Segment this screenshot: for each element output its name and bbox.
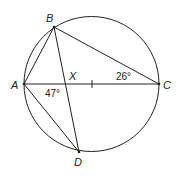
label-point-A: A bbox=[10, 79, 18, 91]
point-A-dot bbox=[23, 83, 26, 86]
segment-AB bbox=[24, 27, 54, 84]
geometry-diagram: B A C D X 47° 26° bbox=[0, 0, 178, 183]
angle-label-47: 47° bbox=[45, 88, 60, 99]
point-D-dot bbox=[78, 151, 81, 154]
label-point-X: X bbox=[68, 70, 77, 82]
label-point-C: C bbox=[163, 79, 171, 91]
point-B-dot bbox=[53, 26, 56, 29]
angle-label-26: 26° bbox=[116, 71, 131, 82]
point-C-dot bbox=[158, 83, 161, 86]
label-point-B: B bbox=[46, 12, 53, 24]
label-point-D: D bbox=[74, 156, 82, 168]
